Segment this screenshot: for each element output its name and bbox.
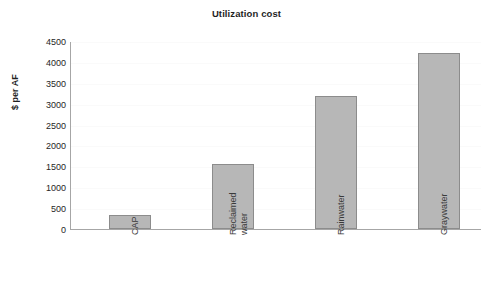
y-tick-label: 0 xyxy=(30,226,66,235)
y-tick-label: 1000 xyxy=(30,184,66,193)
y-tick-label: 4000 xyxy=(30,58,66,67)
x-tick-label-line: water xyxy=(239,192,250,235)
x-tick-label-line: Graywater xyxy=(439,193,450,235)
chart-title: Utilization cost xyxy=(0,8,493,19)
x-tick-label: Reclaimedwater xyxy=(212,231,254,295)
x-tick-label: CAP xyxy=(109,231,151,295)
gridline xyxy=(71,42,481,43)
x-tick-label-line: Reclaimed xyxy=(228,192,239,235)
x-tick-label-line: Rainwater xyxy=(336,194,347,235)
y-tick-label: 3000 xyxy=(30,100,66,109)
plot-area xyxy=(70,42,481,230)
y-axis-tick-labels: 050010001500200025003000350040004500 xyxy=(30,42,66,230)
y-tick-label: 500 xyxy=(30,205,66,214)
x-tick-label: Rainwater xyxy=(315,231,357,295)
y-axis-line xyxy=(70,42,71,230)
y-tick-label: 1500 xyxy=(30,163,66,172)
y-axis-title: $ per AF xyxy=(10,96,20,110)
y-tick-label: 4500 xyxy=(30,38,66,47)
x-tick-label: Graywater xyxy=(418,231,460,295)
x-tick-label-line: CAP xyxy=(130,216,141,235)
bar-chart: Utilization cost $ per AF 05001000150020… xyxy=(0,0,493,297)
y-tick-label: 2500 xyxy=(30,121,66,130)
x-axis-category-labels: CAPReclaimedwaterRainwaterGraywater xyxy=(70,231,481,297)
y-tick-label: 2000 xyxy=(30,142,66,151)
y-tick-label: 3500 xyxy=(30,79,66,88)
